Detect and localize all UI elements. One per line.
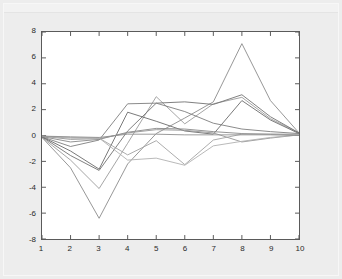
x-axis-tick-label: 1 [29, 245, 53, 253]
line-chart-svg [42, 32, 299, 239]
x-axis-tick-label: 7 [202, 245, 226, 253]
figure-container: -8-6-4-202468 12345678910 [0, 0, 342, 279]
x-axis-tick-label: 4 [115, 245, 139, 253]
data-series-line [42, 95, 299, 171]
figure-top-highlight-bar [4, 4, 338, 13]
x-axis-tick-label: 5 [144, 245, 168, 253]
y-axis-tick-label: -4 [12, 184, 36, 192]
y-axis-tick-label: 8 [12, 27, 36, 35]
y-axis-tick-label: 2 [12, 105, 36, 113]
x-axis-tick-label: 10 [288, 245, 312, 253]
x-axis-tick-label: 2 [58, 245, 82, 253]
data-series-line [42, 134, 299, 137]
data-series-line [42, 97, 299, 189]
y-axis-tick-label: 0 [12, 132, 36, 140]
x-axis-tick-label: 3 [87, 245, 111, 253]
y-axis-tick-label: -6 [12, 210, 36, 218]
x-axis-tick-label: 9 [259, 245, 283, 253]
data-series-line [42, 130, 299, 142]
y-axis-tick-label: 6 [12, 53, 36, 61]
x-axis-tick-label: 8 [230, 245, 254, 253]
y-axis-tick-label: -2 [12, 158, 36, 166]
plot-area [41, 31, 300, 240]
y-axis-tick-label: 4 [12, 79, 36, 87]
x-axis-tick-label: 6 [173, 245, 197, 253]
y-axis-tick-label: -8 [12, 236, 36, 244]
